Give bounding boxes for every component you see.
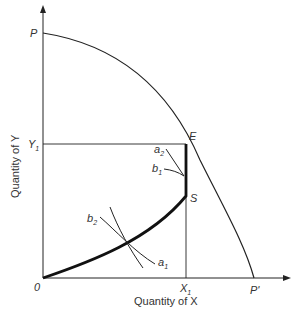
label-b1: b1 — [152, 162, 162, 176]
label-p: P — [30, 27, 38, 39]
origin-label: 0 — [34, 281, 41, 293]
curve-b2 — [100, 217, 155, 264]
curve-b1 — [164, 169, 184, 176]
label-x1: X1 — [179, 282, 191, 296]
efficiency-path — [43, 144, 186, 278]
label-y1: Y1 — [28, 138, 39, 152]
label-a1: a1 — [158, 256, 168, 270]
x-axis-arrow-icon — [283, 275, 291, 281]
label-p-prime: P' — [250, 284, 260, 296]
x-axis-label: Quantity of X — [134, 295, 198, 307]
label-s: S — [190, 192, 198, 204]
production-possibility-diagram: P P' E S Y1 X1 a2 b1 b2 a1 0 Quantity of… — [0, 0, 296, 324]
y-axis-arrow-icon — [40, 5, 46, 13]
label-e: E — [189, 130, 197, 142]
y-axis-label: Quantity of Y — [9, 134, 21, 198]
label-a2: a2 — [154, 143, 164, 157]
label-b2: b2 — [87, 212, 97, 226]
production-possibility-curve — [43, 33, 254, 278]
